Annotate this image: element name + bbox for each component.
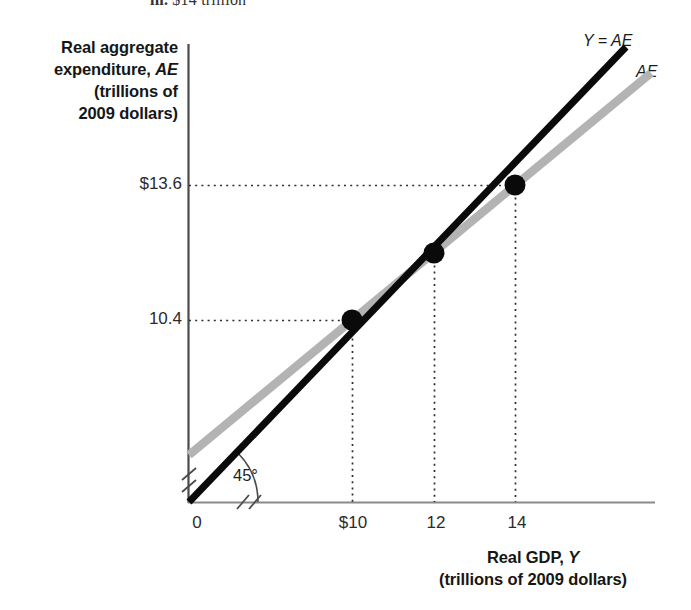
data-point-14 xyxy=(505,175,526,196)
plot-area xyxy=(0,0,691,610)
data-point-12 xyxy=(424,243,445,264)
data-point-10 xyxy=(342,310,363,331)
aggregate-expenditure-figure: iii. $14 trillion Real aggregate expendi… xyxy=(0,0,691,610)
angle-45-arc xyxy=(237,453,258,503)
y-equals-ae-line xyxy=(189,47,626,502)
